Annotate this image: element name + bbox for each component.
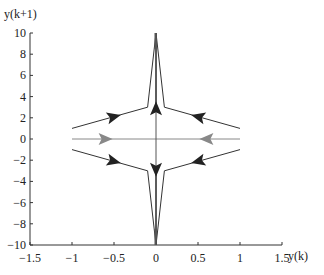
- x-tick-label: −1.5: [19, 251, 41, 265]
- y-tick-label: −10: [7, 238, 26, 252]
- y-ticks: 1086420−2−4−6−8−10: [7, 26, 33, 252]
- arrow-icon: [106, 154, 122, 169]
- arrow-icon: [106, 109, 122, 124]
- y-tick-label: −4: [13, 174, 26, 188]
- y-tick-label: 0: [20, 132, 26, 146]
- y-tick-label: 2: [20, 111, 26, 125]
- y-tick-label: −6: [13, 196, 26, 210]
- x-tick-label: −0.5: [103, 251, 125, 265]
- y-tick-label: −8: [13, 217, 26, 231]
- y-axis-label: y(k+1): [4, 7, 37, 21]
- x-tick-label: −1: [66, 251, 79, 265]
- arrow-icon: [190, 154, 206, 169]
- y-tick-label: −2: [13, 153, 26, 167]
- x-tick-label: 0.5: [191, 251, 206, 265]
- x-tick-label: 1: [237, 251, 243, 265]
- y-tick-label: 10: [14, 26, 26, 40]
- x-axis-label: y(k): [288, 249, 308, 263]
- y-tick-label: 4: [20, 90, 26, 104]
- y-tick-label: 6: [20, 68, 26, 82]
- series-group: [72, 33, 240, 245]
- phase-plot: 1086420−2−4−6−8−10 −1.5−1−0.500.511.5 y(…: [0, 0, 324, 275]
- y-tick-label: 8: [20, 47, 26, 61]
- x-tick-label: 0: [153, 251, 159, 265]
- arrow-icon: [190, 109, 206, 124]
